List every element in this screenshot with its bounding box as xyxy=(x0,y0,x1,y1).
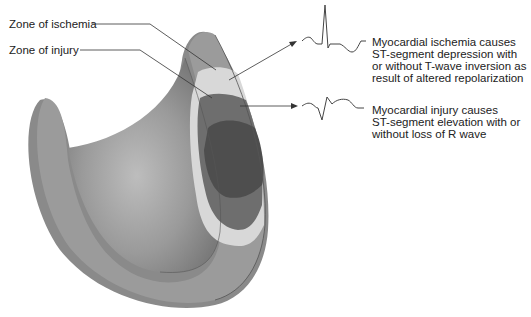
ischemia-description-line: or without T-wave inversion as xyxy=(372,60,526,72)
injury-description-line: Myocardial injury causes xyxy=(372,104,520,116)
ischemia-description: Myocardial ischemia causes ST-segment de… xyxy=(372,36,526,84)
zone-of-ischemia-label: Zone of ischemia xyxy=(9,18,97,30)
injury-description-line: without loss of R wave xyxy=(372,128,520,140)
injury-description-line: ST-segment elevation with or xyxy=(372,116,520,128)
ecg-st-depression-icon xyxy=(302,5,366,52)
zone-of-injury-label: Zone of injury xyxy=(9,44,79,56)
ecg-st-elevation-icon xyxy=(302,97,364,120)
ischemia-description-line: Myocardial ischemia causes xyxy=(372,36,526,48)
ischemia-description-line: result of altered repolarization xyxy=(372,72,526,84)
ischemia-description-line: ST-segment depression with xyxy=(372,48,526,60)
injury-description: Myocardial injury causes ST-segment elev… xyxy=(372,104,520,140)
